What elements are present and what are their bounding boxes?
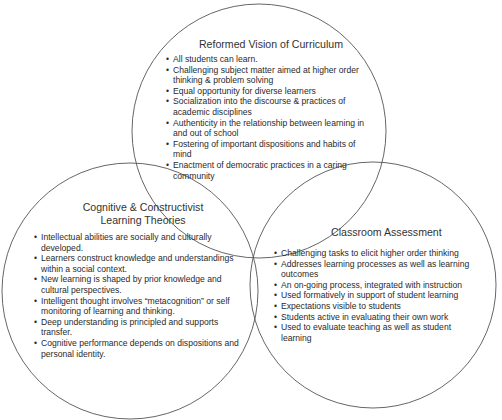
list-item: Used formatively in support of student l… <box>274 290 478 301</box>
list-item: Enactment of democratic practices in a c… <box>166 160 376 181</box>
list-item: Cognitive performance depends on disposi… <box>34 338 248 359</box>
learning-theories-list: Intellectual abilities are socially and … <box>34 232 248 359</box>
list-item: Challenging tasks to elicit higher order… <box>274 248 478 259</box>
learning-theories-title-line1: Cognitive & Constructivist <box>38 201 248 214</box>
list-item: Intellectual abilities are socially and … <box>34 232 248 253</box>
learning-theories-title-line2: Learning Theories <box>38 214 248 227</box>
list-item: An on-going process, integrated with ins… <box>274 280 478 291</box>
curriculum-list: All students can learn. Challenging subj… <box>166 54 376 181</box>
list-item: Intelligent thought involves “metacognit… <box>34 296 248 317</box>
list-item: Used to evaluate teaching as well as stu… <box>274 322 478 343</box>
assessment-list: Challenging tasks to elicit higher order… <box>274 248 478 343</box>
list-item: Learners construct knowledge and underst… <box>34 253 248 274</box>
list-item: All students can learn. <box>166 54 376 65</box>
list-item: Addresses learning processes as well as … <box>274 259 478 280</box>
list-item: Fostering of important dispositions and … <box>166 139 376 160</box>
curriculum-title: Reformed Vision of Curriculum <box>166 38 376 51</box>
list-item: Equal opportunity for diverse learners <box>166 86 376 97</box>
list-item: New learning is shaped by prior knowledg… <box>34 274 248 295</box>
curriculum-section: Reformed Vision of Curriculum All studen… <box>166 38 376 181</box>
assessment-section: Classroom Assessment Challenging tasks t… <box>274 226 478 343</box>
learning-theories-section: Cognitive & Constructivist Learning Theo… <box>34 201 248 359</box>
list-item: Deep understanding is principled and sup… <box>34 317 248 338</box>
list-item: Authenticity in the relationship between… <box>166 118 376 139</box>
list-item: Socialization into the discourse & pract… <box>166 96 376 117</box>
list-item: Challenging subject matter aimed at high… <box>166 65 376 86</box>
list-item: Expectations visible to students <box>274 301 478 312</box>
assessment-title: Classroom Assessment <box>274 226 478 239</box>
learning-theories-title: Cognitive & Constructivist Learning Theo… <box>34 201 248 227</box>
list-item: Students active in evaluating their own … <box>274 312 478 323</box>
